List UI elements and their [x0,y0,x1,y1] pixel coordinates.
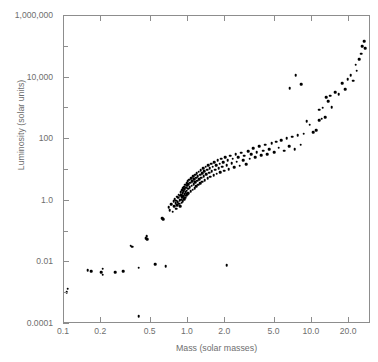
data-point [315,129,318,132]
y-tick [63,138,69,139]
data-point [114,271,117,274]
data-point [233,166,236,169]
data-point [360,52,363,55]
data-point [86,269,89,272]
x-tick-label: 0.2 [94,326,106,336]
data-point [318,109,321,112]
x-tick [274,15,275,21]
y-tick [63,200,69,201]
data-point [175,208,178,211]
x-tick-label: 2.0 [218,326,230,336]
y-tick [63,15,69,16]
data-point [320,117,323,120]
data-point [234,153,237,156]
data-point [237,156,240,159]
data-point [179,205,182,208]
data-point [321,106,324,109]
mass-luminosity-scatter-figure: 0.10.20.51.02.05.010.020.0 0.00010.011.0… [0,0,378,362]
data-point [283,149,286,152]
x-tick [187,317,188,323]
data-point [238,164,241,167]
data-point [344,88,347,91]
y-minor-tick [63,107,68,108]
data-point [278,146,281,149]
data-point [225,164,228,167]
data-point [308,123,311,126]
x-tick-label: 0.1 [57,326,69,336]
x-tick-label: 10.0 [302,326,319,336]
data-point [154,263,157,266]
y-tick-label: 1,000,000 [0,10,53,20]
data-point [248,157,251,160]
y-tick-label: 1.0 [0,195,53,205]
x-tick [311,15,312,21]
data-point [363,40,366,43]
data-point [236,160,239,163]
data-point [349,74,352,77]
data-point [172,210,175,213]
x-tick [150,317,151,323]
data-point [302,132,305,135]
x-tick-label: 5.0 [268,326,280,336]
data-point [223,169,226,172]
y-tick [63,77,69,78]
x-tick [311,317,312,323]
data-point [101,273,104,276]
x-tick [274,317,275,323]
data-point [164,265,167,268]
data-point [305,120,308,123]
data-point [296,134,299,137]
data-point [264,143,267,146]
x-tick-label: 20.0 [340,326,357,336]
data-point [288,87,291,90]
data-point [243,154,246,157]
data-point [228,168,231,171]
y-axis-title: Luminosity (solar units) [16,55,26,195]
data-point [270,142,273,145]
data-point [216,172,219,175]
data-point [347,78,350,81]
y-minor-tick [63,46,68,47]
data-point [273,151,276,154]
data-point [288,145,291,148]
data-point [217,167,220,170]
data-point [214,168,217,171]
x-tick [187,15,188,21]
data-point [338,93,341,96]
data-point [256,151,259,154]
data-point [258,145,261,148]
data-point [245,163,248,166]
y-minor-tick [63,231,68,232]
data-point [266,153,269,156]
data-point [137,315,140,318]
y-minor-tick [63,292,68,293]
y-tick-label: 0.01 [0,256,53,266]
data-points-layer [64,16,369,322]
x-tick [348,15,349,21]
data-point [358,58,361,61]
data-point [291,136,294,139]
data-point [146,238,149,241]
data-point [324,116,327,119]
data-point [247,150,250,153]
data-point [231,157,234,160]
data-point [221,165,224,168]
data-point [254,156,257,159]
data-point [354,64,357,67]
data-point [240,151,243,154]
data-point [299,143,302,146]
data-point [294,74,297,77]
x-tick [100,317,101,323]
data-point [250,153,253,156]
data-point [275,140,278,143]
data-point [364,47,367,50]
data-point [285,137,288,140]
y-tick-label: 0.0001 [0,318,53,328]
data-point [66,287,69,290]
data-point [327,100,330,103]
x-tick-label: 0.5 [144,326,156,336]
data-point [227,159,230,162]
data-point [219,171,222,174]
data-point [137,266,140,269]
data-point [325,96,328,99]
